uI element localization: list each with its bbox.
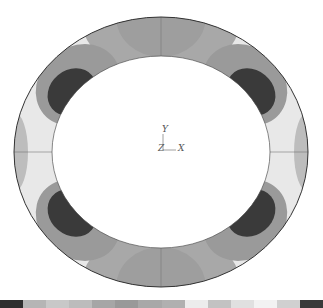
legend-swatch: [69, 300, 92, 308]
legend-swatch: [162, 300, 185, 308]
axis-label-x: X: [178, 143, 184, 153]
legend-swatch: [208, 300, 231, 308]
legend-swatch: [0, 300, 23, 308]
legend-swatch: [115, 300, 138, 308]
legend-swatch: [277, 300, 300, 308]
axis-label-z: Z: [158, 143, 164, 153]
legend-swatch: [138, 300, 161, 308]
color-legend-bar: [0, 300, 323, 308]
legend-swatch: [46, 300, 69, 308]
axis-label-y: Y: [162, 124, 168, 134]
legend-swatch: [254, 300, 277, 308]
legend-swatch: [185, 300, 208, 308]
axis-triad: [163, 134, 176, 150]
legend-swatch: [300, 300, 323, 308]
legend-swatch: [231, 300, 254, 308]
legend-swatch: [92, 300, 115, 308]
legend-swatch: [23, 300, 46, 308]
